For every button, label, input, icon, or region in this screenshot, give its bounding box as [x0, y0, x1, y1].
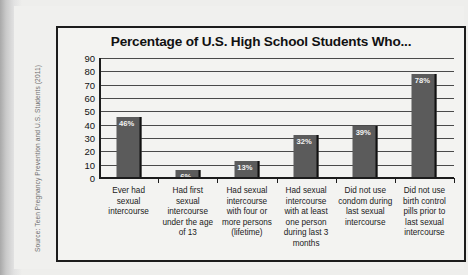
x-axis-line [99, 177, 454, 179]
x-category-label: Had sexualintercoursewith four ormore pe… [217, 186, 276, 239]
x-category-label-line: sexual [158, 197, 217, 208]
y-tick-label-50: 50 [84, 106, 95, 117]
chart-title: Percentage of U.S. High School Students … [58, 34, 464, 49]
bar-value-label: 78% [412, 76, 433, 85]
screenshot-root: Source: Teen Pregnancy Prevention and U.… [0, 0, 468, 275]
x-category-label-line: intercourse [395, 228, 454, 239]
bar-slot: 6% [158, 58, 217, 178]
bar-slot: 13% [217, 58, 276, 178]
bar[interactable]: 39% [353, 126, 378, 178]
x-category-label-line: one person [277, 218, 336, 229]
y-tick-label-60: 60 [84, 93, 95, 104]
x-category-label: Had firstsexualintercourseunder the ageo… [158, 186, 217, 239]
x-category-label-line: pills prior to [395, 207, 454, 218]
y-tick-label-80: 80 [84, 66, 95, 77]
x-category-label-line: intercourse [99, 207, 158, 218]
x-category-label-line: with four or [217, 207, 276, 218]
x-category-label-line: intercourse [277, 197, 336, 208]
x-category-label-line: Did not use [395, 186, 454, 197]
bar-value-label: 39% [353, 128, 374, 137]
x-category-label-line: months [277, 239, 336, 250]
x-category-label: Had sexualintercoursewith at leastone pe… [277, 186, 336, 250]
y-tick-label-90: 90 [84, 53, 95, 64]
bar-slot: 46% [99, 58, 158, 178]
y-tick-label-30: 30 [84, 133, 95, 144]
y-tick-label-20: 20 [84, 146, 95, 157]
x-category-label: Ever hadsexualintercourse [99, 186, 158, 218]
x-category-label-line: Had sexual [217, 186, 276, 197]
y-axis-line [99, 58, 101, 178]
x-category-label-line: Ever had [99, 186, 158, 197]
x-category-label-line: birth control [395, 197, 454, 208]
x-category-label-line: (lifetime) [217, 228, 276, 239]
y-tick-label-70: 70 [84, 79, 95, 90]
x-category-label-line: last sexual [336, 207, 395, 218]
x-category-label-line: intercourse [217, 197, 276, 208]
x-category-label-line: with at least [277, 207, 336, 218]
x-category-label-line: sexual [99, 197, 158, 208]
x-category-label-line: last sexual [395, 218, 454, 229]
y-tick-label-0: 0 [90, 173, 95, 184]
source-credit: Source: Teen Pregnancy Prevention and U.… [34, 42, 41, 252]
bar[interactable]: 46% [116, 117, 141, 178]
bar-value-label: 46% [116, 119, 137, 128]
x-category-label-line: Had sexual [277, 186, 336, 197]
bar[interactable]: 13% [234, 161, 259, 178]
bar[interactable]: 78% [412, 74, 437, 178]
x-category-label-line: under the age [158, 218, 217, 229]
x-category-label-line: Did not use [336, 186, 395, 197]
x-category-label-line: condom during [336, 197, 395, 208]
bar-slot: 32% [277, 58, 336, 178]
x-tick [454, 178, 455, 183]
y-tick-label-40: 40 [84, 119, 95, 130]
x-category-label-line: Had first [158, 186, 217, 197]
x-category-label-line: intercourse [336, 218, 395, 229]
plot-area: 9080706050403020100 46%6%13%32%39%78% [99, 58, 454, 178]
x-category-label-line: more persons [217, 218, 276, 229]
bar[interactable]: 32% [294, 135, 319, 178]
y-tick-label-10: 10 [84, 159, 95, 170]
bar-value-label: 32% [294, 137, 315, 146]
chart-panel: Percentage of U.S. High School Students … [56, 26, 466, 262]
slide-surface: Source: Teen Pregnancy Prevention and U.… [14, 6, 464, 269]
x-category-label: Did not usecondom duringlast sexualinter… [336, 186, 395, 228]
bar-value-label: 13% [234, 163, 255, 172]
bar-slot: 39% [336, 58, 395, 178]
bar-slot: 78% [395, 58, 454, 178]
x-axis-category-labels: Ever hadsexualintercourseHad firstsexual… [99, 186, 454, 258]
bar-series: 46%6%13%32%39%78% [99, 58, 454, 178]
x-category-label-line: during last 3 [277, 228, 336, 239]
x-category-label-line: of 13 [158, 228, 217, 239]
x-category-label: Did not usebirth controlpills prior tola… [395, 186, 454, 239]
x-category-label-line: intercourse [158, 207, 217, 218]
